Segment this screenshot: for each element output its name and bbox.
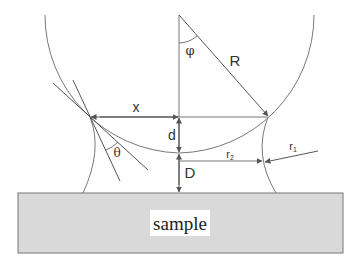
r1-arrow [265, 151, 318, 162]
tangent-meniscus-line [73, 80, 120, 181]
capillary-meniscus-diagram: sample φ R x d θ D r2 r1 [0, 0, 359, 263]
phi-label: φ [185, 43, 194, 58]
x-label: x [133, 99, 140, 115]
R-label: R [230, 52, 241, 69]
sample-label: sample [153, 213, 207, 234]
theta-label: θ [113, 146, 120, 160]
meniscus-right [262, 117, 276, 193]
sample-slab: sample [18, 193, 343, 253]
d-label: d [168, 127, 176, 143]
r2-label: r2 [226, 148, 234, 161]
D-label: D [185, 164, 196, 181]
radius-arrow [179, 15, 268, 116]
tangent-sphere-line [53, 83, 148, 170]
meniscus-left [83, 117, 95, 193]
phi-angle-arc [179, 36, 197, 43]
r1-label: r1 [289, 140, 297, 153]
